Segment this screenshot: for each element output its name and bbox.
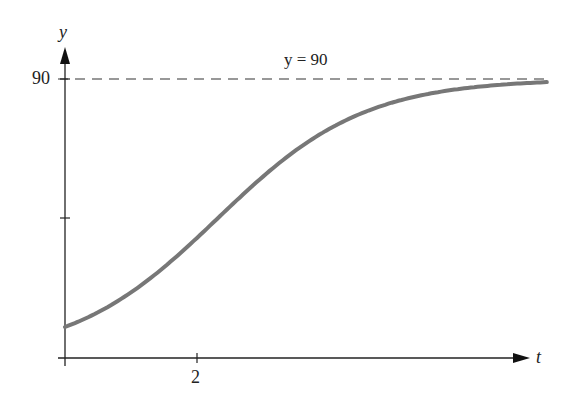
x-axis-arrow-icon — [513, 353, 530, 363]
y-tick-label-90: 90 — [32, 68, 50, 89]
x-axis-label: t — [536, 347, 541, 368]
logistic-curve — [65, 82, 547, 327]
y-axis-label: y — [59, 22, 67, 43]
y-axis-arrow-icon — [60, 47, 70, 64]
asymptote-label: y = 90 — [284, 50, 328, 70]
x-tick-label-2: 2 — [191, 367, 200, 388]
